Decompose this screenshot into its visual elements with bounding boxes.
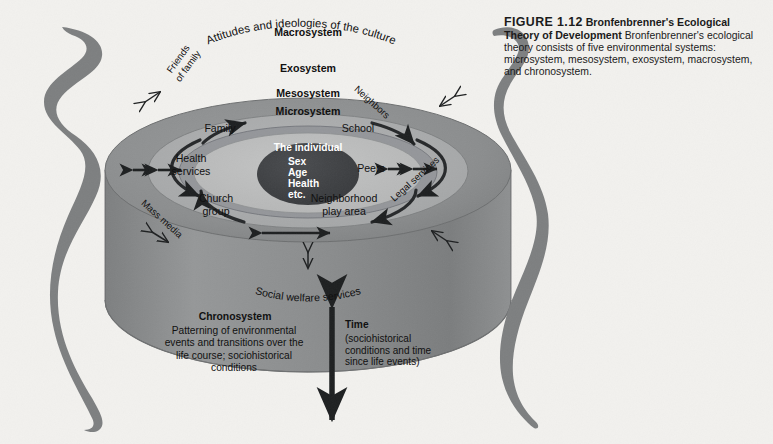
time-body: (sociohistorical conditions and time sin… [345,333,431,368]
label-church-group: Church group [176,192,256,218]
figure-root: Attitudes and ideologies of the culture … [0,0,773,444]
figure-caption: FIGURE 1.12 Bronfenbrenner's Ecological … [504,16,766,78]
individual-heading: The individual [258,143,358,154]
label-peers: Peers [341,163,401,174]
label-family: Family [175,123,265,134]
time-heading: Time [345,320,369,331]
chronosystem-body: Patterning of environmental events and t… [120,325,348,375]
figure-number: FIGURE 1.12 [504,15,583,29]
label-health-services: Health services [148,152,234,178]
label-school: School [313,123,403,134]
label-macrosystem: Macrosystem [228,27,388,38]
label-microsystem: Microsystem [228,106,388,117]
individual-attr-etc: etc. [288,190,306,201]
chronosystem-heading: Chronosystem [140,311,330,322]
label-exosystem: Exosystem [228,63,388,74]
